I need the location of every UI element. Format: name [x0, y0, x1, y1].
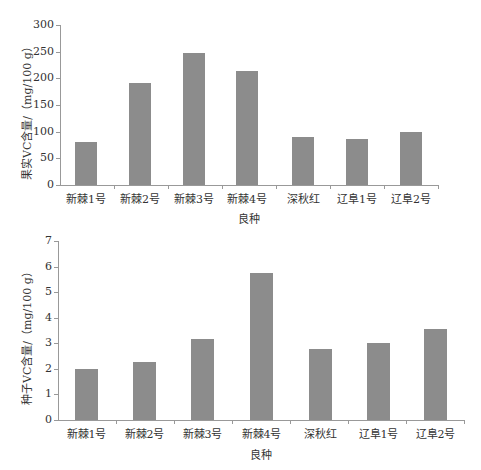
- y-tick: [54, 369, 58, 370]
- y-axis: [58, 241, 59, 420]
- y-tick: [54, 267, 58, 268]
- x-category-label: 新棘2号: [110, 194, 170, 206]
- bar-4: [250, 273, 273, 420]
- x-category-label: 新棘4号: [232, 429, 292, 441]
- y-tick: [54, 420, 58, 421]
- x-category-label: 辽阜1号: [327, 194, 387, 206]
- y-axis-title: 果实VC含量/（mg/100 g）: [18, 41, 34, 180]
- x-category-label: 辽阜2号: [381, 194, 441, 206]
- y-axis-title: 种子VC含量/（mg/100 g）: [18, 266, 34, 405]
- x-tick: [114, 185, 115, 189]
- x-category-label: 深秋红: [291, 429, 351, 441]
- y-tick: [56, 132, 60, 133]
- x-category-label: 新棘1号: [57, 429, 117, 441]
- x-tick: [464, 420, 465, 424]
- y-tick: [54, 292, 58, 293]
- y-tick: [56, 105, 60, 106]
- y-tick: [56, 158, 60, 159]
- x-tick: [222, 185, 223, 189]
- y-tick: [54, 343, 58, 344]
- x-tick: [116, 420, 117, 424]
- y-tick: [56, 25, 60, 26]
- x-category-label: 辽阜2号: [406, 429, 466, 441]
- bar-2: [133, 362, 156, 420]
- x-tick: [330, 185, 331, 189]
- y-tick-label: 0: [22, 414, 52, 426]
- x-axis-title: 良种: [231, 446, 291, 462]
- x-category-label: 深秋红: [273, 194, 333, 206]
- x-tick: [174, 420, 175, 424]
- x-tick: [290, 420, 291, 424]
- x-tick: [276, 185, 277, 189]
- y-tick-label: 0: [24, 179, 54, 191]
- bar-2: [129, 83, 151, 185]
- y-tick: [56, 78, 60, 79]
- y-tick-label: 300: [24, 19, 54, 31]
- x-tick: [348, 420, 349, 424]
- x-category-label: 新棘3号: [164, 194, 224, 206]
- bar-1: [75, 369, 98, 420]
- bar-3: [183, 53, 205, 185]
- bar-5: [292, 137, 314, 185]
- x-axis-title: 良种: [219, 210, 279, 226]
- bar-4: [236, 71, 258, 185]
- bar-7: [400, 132, 422, 185]
- bar-6: [367, 343, 390, 420]
- y-tick: [54, 241, 58, 242]
- figure-caption: [0, 464, 481, 470]
- x-category-label: 辽阜1号: [349, 429, 409, 441]
- y-tick: [56, 52, 60, 53]
- x-tick: [384, 185, 385, 189]
- x-tick: [438, 185, 439, 189]
- x-category-label: 新棘2号: [115, 429, 175, 441]
- y-axis: [60, 25, 61, 185]
- y-tick-label: 7: [22, 235, 52, 247]
- x-category-label: 新棘1号: [56, 194, 116, 206]
- bar-6: [346, 139, 368, 185]
- x-axis: [58, 420, 464, 421]
- x-tick: [406, 420, 407, 424]
- x-tick: [232, 420, 233, 424]
- y-tick: [54, 318, 58, 319]
- y-tick: [56, 185, 60, 186]
- y-tick: [54, 394, 58, 395]
- bar-7: [424, 329, 447, 420]
- x-tick: [168, 185, 169, 189]
- x-category-label: 新棘3号: [173, 429, 233, 441]
- x-axis: [60, 185, 438, 186]
- bar-5: [309, 349, 332, 420]
- bar-1: [75, 142, 97, 185]
- x-category-label: 新棘4号: [217, 194, 277, 206]
- bar-3: [191, 339, 214, 420]
